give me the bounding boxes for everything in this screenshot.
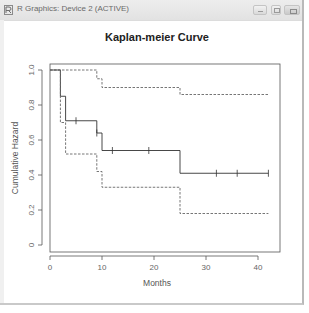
plot-canvas: Kaplan-meier Curve 00.20.40.60.81.0 0102… [4, 20, 302, 303]
y-tick-label: 1.0 [27, 64, 36, 76]
ci-curve [50, 70, 268, 214]
x-tick-label: 30 [202, 263, 211, 272]
r-graphics-icon [4, 5, 13, 15]
x-tick-label: 10 [98, 263, 107, 272]
maximize-button[interactable] [271, 5, 281, 15]
y-axis: 00.20.40.60.81.0 [27, 64, 42, 247]
close-button[interactable] [284, 5, 300, 15]
survival-curve [50, 70, 268, 173]
y-tick-label: 0.6 [27, 134, 36, 146]
x-tick-label: 0 [48, 263, 53, 272]
y-tick-label: 0.8 [27, 99, 36, 111]
title-bar[interactable]: R Graphics: Device 2 (ACTIVE) [0, 0, 302, 20]
minimize-button[interactable] [253, 5, 267, 15]
plot-box [50, 64, 280, 252]
y-tick-label: 0.4 [27, 169, 36, 181]
y-tick-label: 0 [27, 242, 36, 247]
x-tick-label: 20 [150, 263, 159, 272]
chart-series [50, 70, 268, 214]
window-title: R Graphics: Device 2 (ACTIVE) [17, 4, 129, 13]
chart-title: Kaplan-meier Curve [105, 31, 209, 43]
kaplan-meier-chart: Kaplan-meier Curve 00.20.40.60.81.0 0102… [4, 21, 302, 303]
r-graphics-window: R Graphics: Device 2 (ACTIVE) Kaplan-mei… [0, 0, 304, 305]
y-axis-label: Cumulative Hazard [10, 122, 20, 195]
ci-curve [50, 70, 268, 95]
x-axis: 010203040 [48, 256, 263, 272]
x-axis-label: Months [143, 278, 171, 288]
x-tick-label: 40 [254, 263, 263, 272]
y-tick-label: 0.2 [27, 204, 36, 216]
